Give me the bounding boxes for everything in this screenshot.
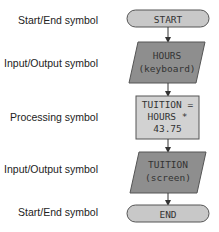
start-text: START bbox=[154, 14, 183, 25]
process-text-line2: HOURS * bbox=[147, 111, 187, 122]
output-io-symbol: TUITION (screen) bbox=[130, 152, 206, 193]
output-text-line1: TUITION bbox=[148, 159, 188, 170]
process-text-line1: TUITION = bbox=[142, 99, 194, 110]
flowchart: START HOURS (keyboard) TUITION = HOURS *… bbox=[0, 0, 219, 232]
end-text: END bbox=[159, 209, 176, 220]
input-text-line1: HOURS bbox=[153, 50, 182, 61]
input-io-symbol: HOURS (keyboard) bbox=[129, 42, 205, 83]
process-text-line3: 43.75 bbox=[153, 123, 182, 134]
output-text-line2: (screen) bbox=[145, 172, 191, 183]
end-terminal-symbol: END bbox=[127, 205, 209, 222]
process-symbol: TUITION = HOURS * 43.75 bbox=[136, 96, 199, 139]
start-terminal-symbol: START bbox=[127, 10, 209, 27]
input-text-line2: (keyboard) bbox=[138, 63, 195, 74]
